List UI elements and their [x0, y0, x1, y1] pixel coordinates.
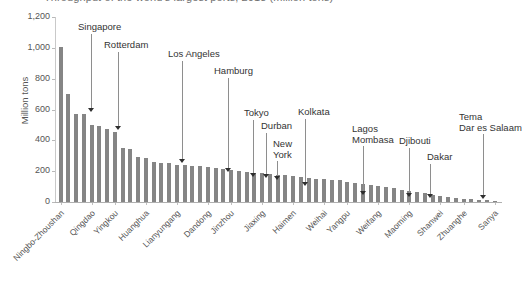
annotation-leader-line: [483, 134, 484, 195]
bar: [190, 166, 194, 202]
bar: [144, 158, 148, 202]
bar: [438, 196, 442, 202]
bar: [198, 166, 202, 202]
bar: [384, 187, 388, 202]
bar: [90, 125, 94, 202]
bar: [268, 174, 272, 202]
bar: [485, 200, 489, 202]
bar: [369, 185, 373, 202]
x-axis-tick-mark: [92, 203, 93, 205]
annotation-arrow-head-icon: [427, 194, 433, 198]
annotation-label: NewYork: [273, 139, 292, 160]
annotation-label-line: York: [273, 150, 292, 161]
annotation-leader-line: [118, 52, 119, 127]
annotation-label: Los Angeles: [168, 49, 220, 60]
x-axis-tick-mark: [208, 203, 209, 205]
annotation-label-line: Lagos: [352, 124, 394, 135]
bar: [322, 179, 326, 202]
bar: [152, 162, 156, 202]
annotation-leader-line: [409, 148, 410, 194]
x-axis-tick-mark: [231, 203, 232, 205]
annotation-leader-line: [182, 61, 183, 160]
annotation-label: Singapore: [78, 22, 121, 33]
bar: [446, 197, 450, 202]
annotation-leader-line: [253, 120, 254, 173]
x-axis-tick-mark: [293, 203, 294, 205]
annotation-leader-line: [305, 119, 306, 183]
annotation-leader-line: [277, 161, 278, 176]
annotation-label: TemaDar es Salaam: [459, 112, 522, 133]
chart-figure: Throughput of the world's largest ports,…: [0, 0, 522, 290]
bar: [392, 188, 396, 202]
annotation-label-line: Djibouti: [399, 136, 431, 147]
annotation-label-line: Durban: [261, 121, 292, 132]
annotation-leader-line: [430, 164, 431, 194]
annotation-label: Kolkata: [298, 107, 330, 118]
bar: [245, 172, 249, 202]
bar: [345, 182, 349, 202]
bar: [283, 175, 287, 202]
x-axis-tick-mark: [324, 203, 325, 205]
bar: [159, 163, 163, 202]
annotation-arrow-head-icon: [406, 193, 412, 197]
bar: [493, 201, 497, 202]
bar: [74, 114, 78, 202]
annotation-label-line: Rotterdam: [104, 40, 148, 51]
annotation-label-line: Kolkata: [298, 107, 330, 118]
annotation-label: Dakar: [427, 152, 452, 163]
annotation-leader-line: [363, 146, 364, 191]
bar: [97, 126, 101, 202]
bar: [376, 186, 380, 202]
bar: [121, 148, 125, 202]
bar: [229, 170, 233, 202]
annotation-arrow-head-icon: [179, 159, 185, 163]
annotation-label-line: New: [273, 139, 292, 150]
bar: [128, 149, 132, 202]
annotation-label: Tokyo: [244, 108, 269, 119]
annotation-label: LagosMombasa: [352, 124, 394, 145]
bar: [105, 129, 109, 202]
annotation-label-line: Mombasa: [352, 135, 394, 146]
bar: [469, 199, 473, 202]
x-axis-tick-mark: [440, 203, 441, 205]
bar: [415, 192, 419, 202]
annotation-arrow-head-icon: [263, 174, 269, 178]
bar: [214, 168, 218, 202]
bar: [299, 177, 303, 202]
bar: [221, 169, 225, 202]
annotation-arrow-head-icon: [274, 176, 280, 180]
annotation-label-line: Los Angeles: [168, 49, 220, 60]
bar: [400, 190, 404, 202]
bar: [252, 173, 256, 202]
annotation-arrow-head-icon: [302, 182, 308, 186]
bar: [330, 180, 334, 202]
annotation-leader-line: [91, 34, 92, 109]
bar: [82, 114, 86, 202]
annotation-label: Hamburg: [214, 66, 253, 77]
x-axis-tick-mark: [115, 203, 116, 205]
annotation-label-line: Hamburg: [214, 66, 253, 77]
bar: [454, 198, 458, 202]
bar: [237, 171, 241, 202]
annotation-label-line: Singapore: [78, 22, 121, 33]
annotation-label-line: Tokyo: [244, 108, 269, 119]
x-axis-tick-mark: [177, 203, 178, 205]
bar: [477, 200, 481, 202]
bar: [183, 165, 187, 202]
x-axis-tick-mark: [464, 203, 465, 205]
bar-series: [0, 0, 522, 290]
x-axis-tick-mark: [495, 203, 496, 205]
annotation-arrow-head-icon: [360, 191, 366, 195]
annotation-label: Rotterdam: [104, 40, 148, 51]
x-axis-tick-mark: [61, 203, 62, 205]
annotation-label: Durban: [261, 121, 292, 132]
bar: [353, 183, 357, 202]
x-axis-tick-mark: [347, 203, 348, 205]
bar: [291, 176, 295, 202]
bar: [136, 157, 140, 202]
x-axis-tick-mark: [378, 203, 379, 205]
bar: [113, 132, 117, 202]
annotation-leader-line: [266, 133, 267, 174]
x-axis-tick-mark: [262, 203, 263, 205]
bar: [167, 163, 171, 202]
